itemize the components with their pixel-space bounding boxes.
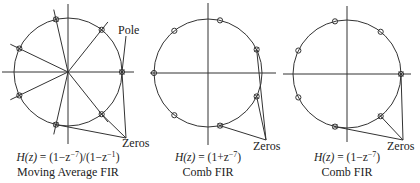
diagram-comb-plus: ZerosH(z) = (1+z−7)Comb FIR: [150, 3, 281, 179]
zeros-label: Zeros: [253, 139, 281, 153]
diagram-caption: Comb FIR: [321, 165, 372, 179]
zero-pointer-line: [56, 125, 126, 138]
zero-pointer-line: [122, 72, 126, 138]
transfer-function: H(z) = (1+z−7): [174, 150, 241, 164]
zero-pointer-line: [401, 74, 403, 140]
diagram-caption: Comb FIR: [182, 165, 233, 179]
zero-pointer-line: [220, 126, 266, 140]
zeros-label: Zeros: [122, 136, 150, 150]
pole-pointer-line: [122, 36, 126, 72]
pole-zero-figure: PoleZerosH(z) = (1−z−7)/(1−z−1)Moving Av…: [0, 0, 420, 183]
transfer-function: H(z) = (1−z−7)/(1−z−1): [16, 150, 120, 164]
transfer-function: H(z) = (1−z−7): [313, 150, 380, 164]
diagram-comb-minus: ZerosH(z) = (1−z−7)Comb FIR: [283, 6, 415, 179]
pole-label: Pole: [118, 23, 139, 37]
pole-zero-diagrams: PoleZerosH(z) = (1−z−7)/(1−z−1)Moving Av…: [0, 0, 420, 183]
diagram-caption: Moving Average FIR: [17, 165, 119, 179]
zero-pointer-line: [257, 96, 266, 140]
zeros-label: Zeros: [387, 139, 415, 153]
diagram-moving-average: PoleZerosH(z) = (1−z−7)/(1−z−1)Moving Av…: [2, 4, 150, 179]
